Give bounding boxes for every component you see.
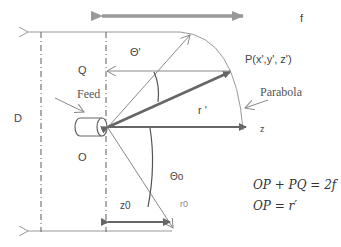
equation-op: OP = r′ [253,200,297,212]
equation-focal: OP + PQ = 2f [253,179,336,191]
label-point-p: P(x',y', z') [245,54,292,65]
label-r0: r0 [180,200,188,209]
label-feed: Feed [77,88,100,100]
label-r-prime: r ' [198,105,207,116]
label-f: f [300,13,303,24]
label-parabola: Parabola [260,86,302,98]
label-d: D [14,113,22,124]
label-z: z [260,125,265,134]
r-prime-arrow [108,72,230,127]
label-q: Q [78,65,87,76]
parabolic-reflector-diagram: f Θ' P(x',y', z') Q Feed Parabola D r ' … [0,0,341,247]
label-theta-prime: Θ' [130,47,141,58]
feed-horn-icon [75,118,107,136]
label-o: O [78,152,87,163]
label-z0: z0 [120,201,131,211]
label-theta0: Θo [170,172,183,182]
